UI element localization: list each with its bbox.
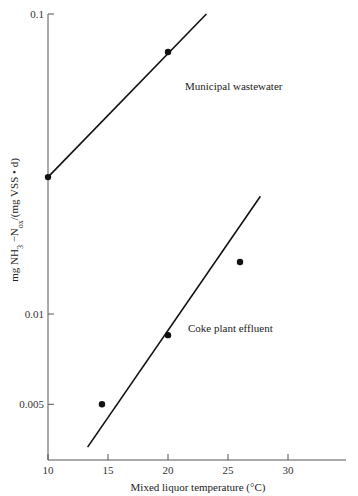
- data-point: [45, 174, 51, 180]
- y-axis-title: mg NH3 −Nox/(mg VSS • d): [8, 158, 25, 282]
- plot-area: Municipal wastewaterCoke plant effluent: [45, 14, 283, 447]
- x-tick-label: 30: [283, 464, 295, 476]
- x-axis-title: Mixed liquor temperature (°C): [131, 481, 266, 494]
- y-tick-label: 0.01: [25, 308, 44, 320]
- x-tick-label: 25: [223, 464, 235, 476]
- data-point: [99, 401, 105, 407]
- data-point: [165, 49, 171, 55]
- fit-line: [48, 14, 206, 177]
- chart: 10152025300.10.010.005 Municipal wastewa…: [0, 0, 358, 496]
- data-point: [165, 332, 171, 338]
- x-tick-label: 15: [103, 464, 115, 476]
- x-tick-label: 10: [43, 464, 55, 476]
- series-label: Coke plant effluent: [188, 322, 273, 334]
- axes: 10152025300.10.010.005: [19, 8, 346, 476]
- x-tick-label: 20: [163, 464, 175, 476]
- series-coke-plant-effluent: Coke plant effluent: [88, 196, 273, 447]
- series-municipal-wastewater: Municipal wastewater: [45, 14, 283, 180]
- data-point: [237, 259, 243, 265]
- series-label: Municipal wastewater: [185, 80, 283, 92]
- y-tick-label: 0.1: [30, 8, 44, 20]
- y-tick-label: 0.005: [19, 398, 44, 410]
